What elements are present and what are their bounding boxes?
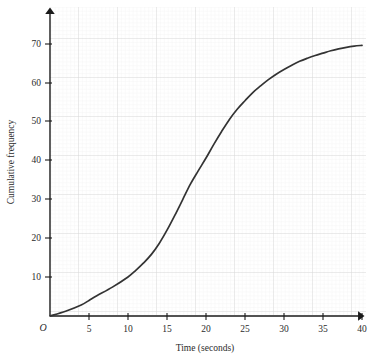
x-tick-label: 10 <box>123 324 133 334</box>
y-tick-label: 20 <box>32 233 42 243</box>
x-axis-title: Time (seconds) <box>176 343 235 354</box>
y-tick-label: 60 <box>32 78 42 88</box>
x-tick-labels: 5 10 15 20 25 30 35 40 <box>87 324 367 334</box>
x-tick-label: 35 <box>318 324 328 334</box>
y-tick-label: 30 <box>32 194 42 204</box>
y-tick-label: 10 <box>32 272 42 282</box>
cumulative-frequency-chart: 10 20 30 40 50 60 70 5 10 15 20 25 30 35… <box>0 0 368 358</box>
x-tick-label: 5 <box>87 324 92 334</box>
y-tick-label: 40 <box>32 155 42 165</box>
x-tick-label: 20 <box>201 324 211 334</box>
x-tick-label: 30 <box>279 324 289 334</box>
y-tick-label: 70 <box>32 39 42 49</box>
x-tick-label: 40 <box>357 324 367 334</box>
y-tick-labels: 10 20 30 40 50 60 70 <box>32 39 42 282</box>
y-axis-title: Cumulative frequency <box>6 119 16 204</box>
x-tick-label: 25 <box>240 324 250 334</box>
x-tick-label: 15 <box>162 324 172 334</box>
y-tick-label: 50 <box>32 116 42 126</box>
origin-label: O <box>39 322 46 333</box>
chart-canvas: 10 20 30 40 50 60 70 5 10 15 20 25 30 35… <box>0 0 368 358</box>
